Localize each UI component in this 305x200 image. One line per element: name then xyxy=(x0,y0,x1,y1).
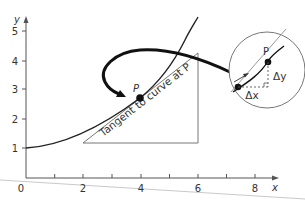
x-axis-label: x xyxy=(271,182,278,193)
inset-circle xyxy=(229,32,305,108)
inset-magnifier: P Δy Δx xyxy=(229,29,305,108)
delta-y-label: Δy xyxy=(273,70,286,82)
y-tick-1: 1 xyxy=(12,143,18,154)
delta-x-label: Δx xyxy=(245,89,258,101)
x-tick-2: 2 xyxy=(80,183,86,194)
inset-p-label: P xyxy=(263,46,269,57)
y-tick-3: 3 xyxy=(12,84,18,95)
tangent-diagram: 0 2 4 6 8 x 1 2 3 4 5 y Tangent to curve… xyxy=(0,0,305,200)
point-p xyxy=(136,94,144,102)
x-tick-0: 0 xyxy=(18,183,24,194)
y-tick-4: 4 xyxy=(12,56,18,67)
tangent-label: Tangent to curve at P xyxy=(96,60,192,139)
y-tick-2: 2 xyxy=(12,114,18,125)
x-tick-6: 6 xyxy=(195,183,201,194)
x-axis-arrow-icon xyxy=(272,176,279,181)
x-tick-4: 4 xyxy=(138,183,144,194)
point-p-label: P xyxy=(133,83,140,94)
y-tick-5: 5 xyxy=(12,26,18,37)
y-axis-arrow-icon xyxy=(24,16,29,23)
y-axis-label: y xyxy=(13,14,21,25)
x-tick-8: 8 xyxy=(252,183,258,194)
page-edge-line xyxy=(0,180,305,199)
